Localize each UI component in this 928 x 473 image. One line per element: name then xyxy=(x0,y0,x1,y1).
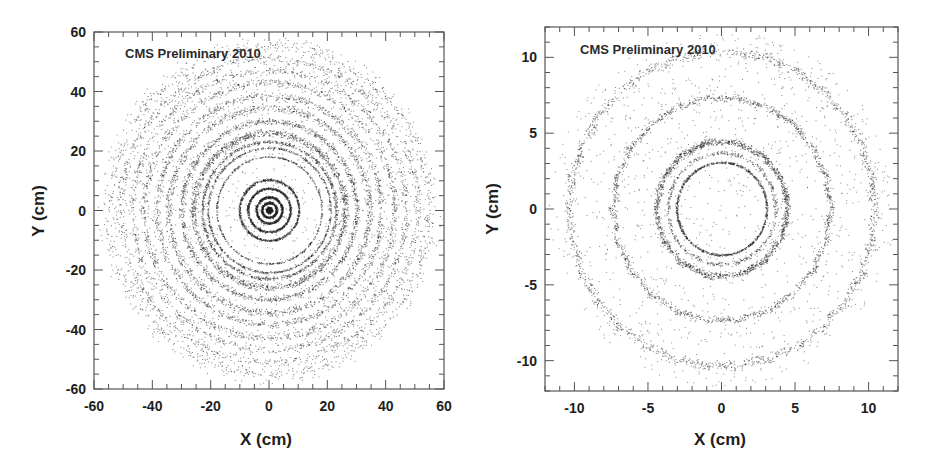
x-tick-label: -5 xyxy=(642,400,655,416)
x-tick-label: -10 xyxy=(564,400,584,416)
y-tick-label: 5 xyxy=(529,125,537,141)
right-plot-panel: -10-505101050-5-10 CMS Preliminary 2010 … xyxy=(0,0,928,473)
x-tick-label: 10 xyxy=(861,400,877,416)
right-y-axis-title: Y (cm) xyxy=(483,183,502,235)
y-tick-label: -5 xyxy=(525,277,538,293)
right-plot-frame xyxy=(545,27,898,391)
y-tick-label: 10 xyxy=(521,49,537,65)
right-x-axis-title: X (cm) xyxy=(694,430,746,449)
right-scatter-plot: -10-505101050-5-10 CMS Preliminary 2010 … xyxy=(0,0,928,473)
right-axis-ticks: -10-505101050-5-10 xyxy=(517,27,898,416)
scatter-points-path xyxy=(549,35,893,386)
x-tick-label: 0 xyxy=(718,400,726,416)
x-tick-label: 5 xyxy=(791,400,799,416)
y-tick-label: 0 xyxy=(529,201,537,217)
right-scatter-points xyxy=(549,35,893,386)
right-annotation: CMS Preliminary 2010 xyxy=(580,42,716,57)
y-tick-label: -10 xyxy=(517,353,537,369)
